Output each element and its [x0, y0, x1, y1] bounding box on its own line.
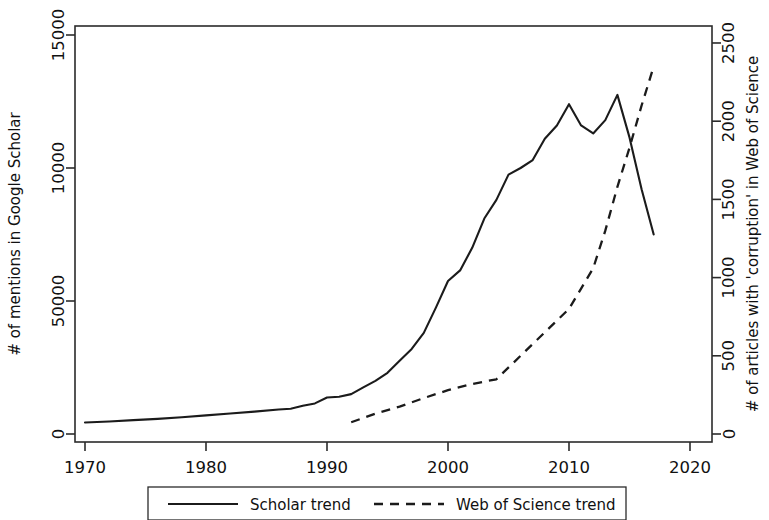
y-left-tick-label: 0	[49, 429, 68, 440]
y-right-tick-label: 2500	[720, 22, 739, 64]
x-tick-label: 1990	[306, 458, 348, 477]
x-tick-label: 2020	[669, 458, 711, 477]
y-right-tick-label: 0	[720, 429, 739, 440]
y-right-tick-label: 1500	[720, 178, 739, 220]
x-axis-tick-labels: 197019801990200020102020	[64, 458, 711, 477]
trend-line-chart: 197019801990200020102020 050000100001500…	[0, 0, 769, 520]
legend-label-web-of-science-trend: Web of Science trend	[456, 496, 616, 514]
y-axis-right-tick-labels: 05001000150020002500	[720, 22, 739, 439]
y-right-tick-label: 1000	[720, 257, 739, 299]
y-axis-right-title: # of articles with 'corruption' in Web o…	[744, 56, 762, 412]
x-axis-ticks	[85, 442, 690, 451]
y-left-tick-label: 50000	[49, 275, 68, 328]
x-tick-label: 1980	[185, 458, 227, 477]
y-axis-left-tick-labels: 0500001000015000	[49, 9, 68, 440]
plot-frame	[75, 26, 712, 442]
legend-label-scholar-trend: Scholar trend	[250, 496, 351, 514]
x-tick-label: 2000	[427, 458, 469, 477]
y-left-tick-label: 15000	[49, 9, 68, 62]
y-right-tick-label: 2000	[720, 100, 739, 142]
y-axis-left-title: # of mentions in Google Scholar	[6, 112, 24, 356]
x-tick-label: 2010	[548, 458, 590, 477]
x-tick-label: 1970	[64, 458, 106, 477]
series-line-scholar-trend	[85, 95, 654, 423]
y-left-tick-label: 10000	[49, 142, 68, 195]
series-line-web-of-science-trend	[351, 66, 654, 422]
chart-figure: 197019801990200020102020 050000100001500…	[0, 0, 769, 520]
y-right-tick-label: 500	[720, 340, 739, 372]
chart-legend: Scholar trend Web of Science trend	[148, 487, 626, 520]
y-axis-left-ticks	[66, 35, 75, 434]
